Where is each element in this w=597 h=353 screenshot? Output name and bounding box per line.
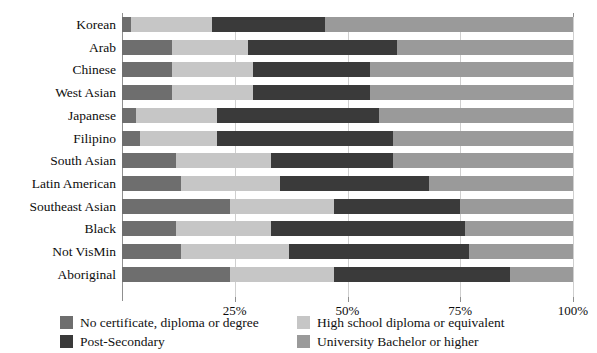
stacked-bar-chart: KoreanArabChineseWest AsianJapaneseFilip… bbox=[0, 0, 597, 353]
bar-segment bbox=[172, 62, 253, 77]
legend-label: No certificate, diploma or degree bbox=[80, 315, 259, 331]
x-tick-mark bbox=[460, 297, 461, 302]
y-axis-label: Chinese bbox=[4, 62, 116, 77]
bar-row bbox=[122, 199, 573, 214]
bar-segment bbox=[172, 85, 253, 100]
bar-segment bbox=[136, 108, 217, 123]
legend-swatch bbox=[60, 316, 73, 329]
y-axis-label: Aboriginal bbox=[4, 267, 116, 282]
bar-segment bbox=[393, 131, 573, 146]
bar-segment bbox=[122, 244, 181, 259]
bar-segment bbox=[334, 267, 510, 282]
bar-segment bbox=[172, 40, 249, 55]
bar-segment bbox=[280, 176, 429, 191]
bar-segment bbox=[176, 221, 271, 236]
y-axis-label: Not VisMin bbox=[4, 244, 116, 259]
bar-segment bbox=[181, 244, 289, 259]
bar-segment bbox=[393, 153, 573, 168]
y-axis-label: Filipino bbox=[4, 131, 116, 146]
legend-swatch bbox=[297, 316, 310, 329]
bar-segment bbox=[253, 85, 370, 100]
bar-segment bbox=[131, 17, 212, 32]
x-tick-mark bbox=[573, 297, 574, 302]
bar-segment bbox=[122, 221, 176, 236]
y-axis-label: Latin American bbox=[4, 176, 116, 191]
bar-row bbox=[122, 108, 573, 123]
y-axis-label: Japanese bbox=[4, 108, 116, 123]
bar-segment bbox=[334, 199, 460, 214]
plot-area bbox=[122, 17, 573, 297]
bar-segment bbox=[122, 153, 176, 168]
bar-segment bbox=[465, 221, 573, 236]
legend-label: Post-Secondary bbox=[80, 334, 165, 350]
y-axis-label: Korean bbox=[4, 17, 116, 32]
bar-segment bbox=[217, 108, 379, 123]
bar-row bbox=[122, 153, 573, 168]
bar-segment bbox=[510, 267, 573, 282]
bar-segment bbox=[122, 267, 230, 282]
bar-row bbox=[122, 244, 573, 259]
bar-segment bbox=[460, 199, 573, 214]
y-axis-label: Arab bbox=[4, 40, 116, 55]
y-axis-label: Black bbox=[4, 221, 116, 236]
bar-segment bbox=[370, 85, 573, 100]
bar-segment bbox=[140, 131, 217, 146]
bar-row bbox=[122, 267, 573, 282]
bar-segment bbox=[122, 176, 181, 191]
bar-segment bbox=[122, 62, 172, 77]
bar-row bbox=[122, 40, 573, 55]
bar-segment bbox=[122, 85, 172, 100]
bar-segment bbox=[212, 17, 325, 32]
bar-segment bbox=[230, 267, 334, 282]
gridline-100 bbox=[573, 17, 574, 297]
legend-swatch bbox=[60, 335, 73, 348]
bar-row bbox=[122, 17, 573, 32]
bar-segment bbox=[271, 221, 465, 236]
bar-segment bbox=[122, 108, 136, 123]
bar-segment bbox=[217, 131, 393, 146]
bar-segment bbox=[429, 176, 573, 191]
bar-segment bbox=[325, 17, 573, 32]
x-tick-mark bbox=[235, 297, 236, 302]
bar-segment bbox=[248, 40, 397, 55]
bar-segment bbox=[230, 199, 334, 214]
chart-legend: No certificate, diploma or degreePost-Se… bbox=[0, 313, 597, 353]
bar-segment bbox=[176, 153, 271, 168]
bar-row bbox=[122, 176, 573, 191]
bar-row bbox=[122, 62, 573, 77]
bar-segment bbox=[181, 176, 280, 191]
y-axis-label: Southeast Asian bbox=[4, 199, 116, 214]
y-axis-label: South Asian bbox=[4, 153, 116, 168]
bar-segment bbox=[122, 199, 230, 214]
bar-segment bbox=[122, 40, 172, 55]
bar-segment bbox=[271, 153, 393, 168]
bar-segment bbox=[379, 108, 573, 123]
legend-label: University Bachelor or higher bbox=[317, 334, 479, 350]
bar-segment bbox=[469, 244, 573, 259]
bar-segment bbox=[289, 244, 469, 259]
legend-label: High school diploma or equivalent bbox=[317, 315, 504, 331]
legend-swatch bbox=[297, 335, 310, 348]
x-tick-mark bbox=[348, 297, 349, 302]
bar-segment bbox=[370, 62, 573, 77]
bar-row bbox=[122, 85, 573, 100]
y-axis-label: West Asian bbox=[4, 85, 116, 100]
bar-segment bbox=[397, 40, 573, 55]
bar-segment bbox=[253, 62, 370, 77]
bar-segment bbox=[122, 131, 140, 146]
bar-segment bbox=[122, 17, 131, 32]
bar-row bbox=[122, 131, 573, 146]
bar-row bbox=[122, 221, 573, 236]
